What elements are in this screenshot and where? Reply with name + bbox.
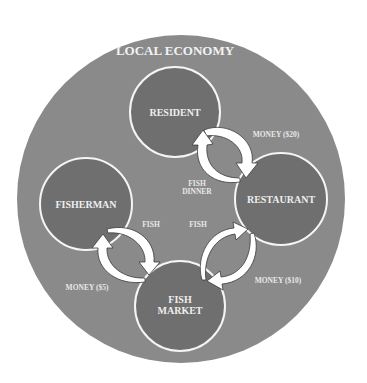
- node-label-fish-market-2: MARKET: [158, 305, 203, 316]
- flow-label-money-5: MONEY ($5): [66, 283, 109, 292]
- node-fisherman: FISHERMAN: [40, 158, 132, 250]
- flow-label-money-20: MONEY ($20): [253, 130, 300, 139]
- node-label-resident: RESIDENT: [149, 107, 200, 118]
- node-label-restaurant: RESTAURANT: [247, 194, 315, 205]
- local-economy-diagram: LOCAL ECONOMY RESIDENT RESTAURANT FISHER…: [0, 0, 367, 383]
- flow-label-money-10: MONEY ($10): [255, 276, 302, 285]
- diagram-title: LOCAL ECONOMY: [116, 43, 235, 58]
- node-label-fisherman: FISHERMAN: [55, 199, 117, 210]
- flow-label-fish-dinner-2: DINNER: [182, 187, 212, 196]
- flow-label-fish-1: FISH: [142, 220, 160, 229]
- flow-label-fish-2: FISH: [189, 220, 207, 229]
- node-label-fish-market-1: FISH: [168, 294, 192, 305]
